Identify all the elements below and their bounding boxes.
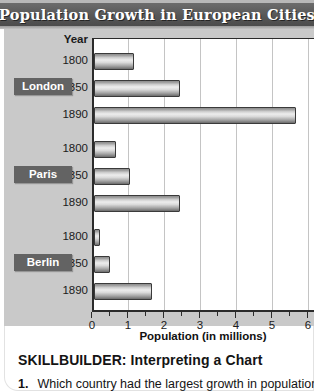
year-label-paris-1800: 1800	[36, 141, 88, 155]
question-text: Which country had the largest growth in …	[37, 377, 314, 391]
tick-minor-2	[181, 312, 182, 316]
bar-paris-1800	[94, 141, 116, 158]
chart-figure: Population Growth in European Cities Yea…	[0, 0, 314, 391]
bar-paris-1850	[94, 168, 130, 185]
bar-paris-1890	[94, 195, 180, 212]
gridline-6	[308, 39, 309, 310]
bar-berlin-1800	[94, 229, 100, 246]
chart-title-banner: Population Growth in European Cities	[0, 3, 314, 26]
page-title: Population Growth in European Cities	[0, 6, 314, 23]
tick-minor-5	[289, 312, 290, 316]
year-label-paris-1890: 1890	[36, 195, 88, 209]
bar-berlin-1890	[94, 283, 152, 300]
year-label-london-1800: 1800	[36, 53, 88, 67]
tick-minor-1	[145, 312, 146, 316]
city-label-london: London	[14, 78, 72, 95]
tick-major-1	[127, 312, 128, 318]
gridline-4	[236, 39, 237, 310]
year-label-berlin-1800: 1800	[36, 229, 88, 243]
city-label-paris: Paris	[14, 166, 72, 183]
plot-area	[92, 38, 314, 312]
gridline-3	[200, 39, 201, 310]
tick-major-4	[235, 312, 236, 318]
tick-minor-3	[217, 312, 218, 316]
tick-major-6	[307, 312, 308, 318]
tick-major-2	[163, 312, 164, 318]
year-label-berlin-1890: 1890	[36, 283, 88, 297]
skillbuilder-heading: SKILLBUILDER: Interpreting a Chart	[18, 352, 263, 368]
gridline-5	[272, 39, 273, 310]
question-item: 1. Which country had the largest growth …	[18, 377, 314, 391]
bar-london-1850	[94, 80, 180, 97]
bar-berlin-1850	[94, 256, 110, 273]
x-axis-title: Population (in millions)	[92, 330, 314, 342]
city-label-berlin: Berlin	[14, 254, 72, 271]
tick-minor-0	[109, 312, 110, 316]
tick-major-3	[199, 312, 200, 318]
bar-london-1800	[94, 53, 134, 70]
tick-major-5	[271, 312, 272, 318]
question-number: 1.	[18, 377, 28, 391]
tick-major-0	[91, 312, 92, 318]
year-column-header: Year	[36, 32, 88, 46]
bar-london-1890	[94, 107, 296, 124]
tick-minor-4	[253, 312, 254, 316]
year-label-london-1890: 1890	[36, 107, 88, 121]
